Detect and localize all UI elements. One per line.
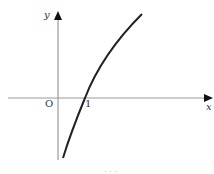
function-graph: y x O 1 · · · — [0, 0, 214, 174]
y-axis-arrow-icon — [54, 11, 62, 20]
x-axis-label: x — [206, 101, 212, 112]
tick-label-1: 1 — [85, 98, 91, 109]
y-axis-label: y — [43, 9, 50, 20]
caption-partial: · · · — [104, 167, 117, 174]
origin-label: O — [45, 98, 53, 109]
function-curve — [63, 14, 142, 158]
